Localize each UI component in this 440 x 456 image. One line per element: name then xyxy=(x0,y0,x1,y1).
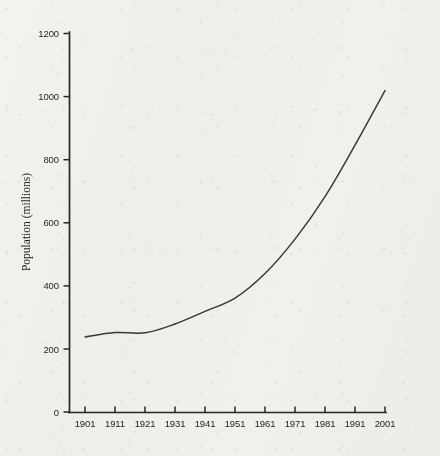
x-tick-label-1981: 1981 xyxy=(315,418,336,429)
y-axis-title: Population (millions) xyxy=(20,173,33,271)
x-tick-label-1921: 1921 xyxy=(135,418,156,429)
chart-canvas: 1200 1000 800 600 400 200 0 1901 1911 19… xyxy=(0,0,440,456)
y-tick-label-1200: 1200 xyxy=(38,28,59,39)
x-tick-label-1931: 1931 xyxy=(165,418,186,429)
y-tick-label-400: 400 xyxy=(43,280,59,291)
x-axis-tick-labels: 1901 1911 1921 1931 1941 1951 1961 1971 … xyxy=(75,418,396,429)
x-tick-label-1901: 1901 xyxy=(75,418,96,429)
x-tick-label-1991: 1991 xyxy=(345,418,366,429)
x-axis-tick-marks xyxy=(85,407,385,413)
population-line-chart: 1200 1000 800 600 400 200 0 1901 1911 19… xyxy=(0,0,440,456)
y-axis-tick-marks xyxy=(64,34,70,413)
y-tick-label-200: 200 xyxy=(43,344,59,355)
x-tick-label-2001: 2001 xyxy=(375,418,396,429)
x-tick-label-1941: 1941 xyxy=(195,418,216,429)
y-tick-label-1000: 1000 xyxy=(38,91,59,102)
y-axis-tick-labels: 1200 1000 800 600 400 200 0 xyxy=(38,28,59,418)
y-tick-label-600: 600 xyxy=(43,217,59,228)
x-tick-label-1951: 1951 xyxy=(225,418,246,429)
x-tick-label-1911: 1911 xyxy=(105,418,125,429)
y-tick-label-0: 0 xyxy=(54,407,59,418)
y-tick-label-800: 800 xyxy=(43,154,59,165)
population-data-line xyxy=(85,91,385,337)
x-tick-label-1961: 1961 xyxy=(255,418,276,429)
x-tick-label-1971: 1971 xyxy=(285,418,306,429)
